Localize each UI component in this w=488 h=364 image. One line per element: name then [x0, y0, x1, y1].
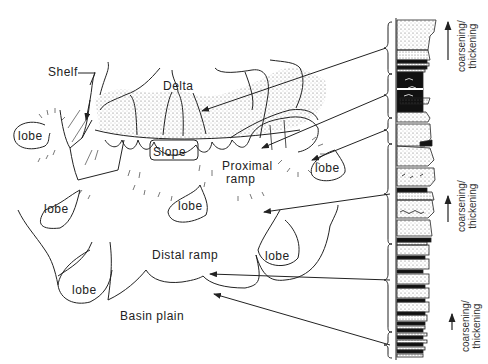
distal-ramp-label: Distal ramp — [152, 249, 218, 261]
trend-arrows — [448, 22, 452, 330]
proximal-ramp-label-line1: Proximal — [222, 160, 273, 172]
stratigraphic-column — [397, 20, 436, 357]
lobe-label: lobe — [315, 162, 340, 174]
column-annotation-middle: coarsening/ thickening — [456, 180, 478, 232]
basin-plain-label: Basin plain — [120, 310, 184, 322]
column-braces — [384, 18, 396, 360]
column-annotation-top: coarsening/ thickening — [456, 20, 478, 72]
lobe-label: lobe — [265, 250, 290, 262]
lobe-label: lobe — [44, 203, 69, 215]
proximal-ramp-label-line2: ramp — [226, 173, 255, 185]
shelf-label: Shelf — [48, 66, 78, 78]
column-annotation-bottom: coarsening/ thickening — [460, 300, 482, 352]
lobe-label: lobe — [18, 130, 43, 142]
lobe-label: lobe — [178, 200, 203, 212]
delta-body — [95, 60, 326, 139]
lobe-label: lobe — [72, 284, 97, 296]
slope-label: Slope — [153, 146, 186, 158]
delta-label: Delta — [163, 80, 194, 92]
depositional-diagram: Shelf Delta Slope Proximal ramp Distal r… — [0, 0, 488, 364]
